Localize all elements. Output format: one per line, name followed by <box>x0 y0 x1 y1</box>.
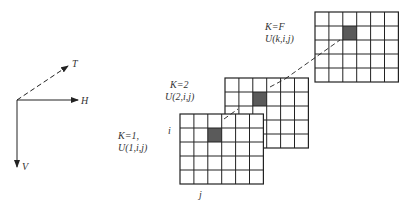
h-axis-label: H <box>80 95 89 106</box>
layer-2-k-label: K=2 <box>169 79 188 90</box>
diagram: T H V K=1, U(1,i,j) K=2 U(2,i,j) K=F U(k… <box>0 0 409 212</box>
layer-2-u-label: U(2,i,j) <box>165 91 195 103</box>
col-index-label: j <box>197 189 202 200</box>
layer-F-u-label: U(k,i,j) <box>265 33 295 45</box>
row-index-label: i <box>168 125 171 136</box>
layer-F-k-label: K=F <box>264 21 285 32</box>
t-axis-label: T <box>72 58 79 69</box>
v-axis-label: V <box>22 161 30 172</box>
highlighted-cell <box>343 26 357 40</box>
highlighted-cell <box>208 128 222 142</box>
grid-layer-1 <box>180 114 263 184</box>
t-axis-arrow <box>17 66 68 100</box>
highlighted-cell <box>253 92 267 106</box>
layer-1-u-label: U(1,i,j) <box>118 142 148 154</box>
grid-layer-F <box>315 12 398 82</box>
axes: T H V <box>17 58 89 172</box>
layer-1-k-label: K=1, <box>117 130 139 141</box>
